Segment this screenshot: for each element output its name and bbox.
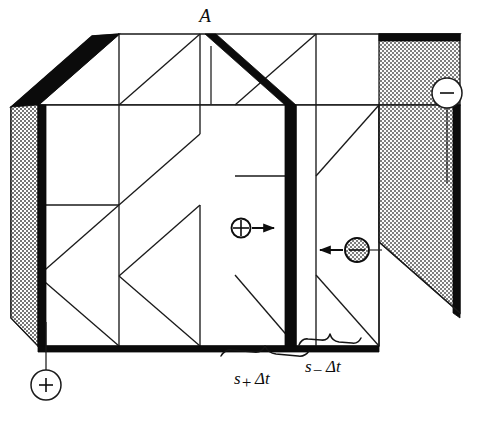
positive-electrode-thick-right-edge bbox=[38, 105, 46, 352]
negative-electrode-shaded-inner bbox=[379, 105, 460, 313]
negative-drift-sub: − bbox=[312, 361, 323, 380]
negative-drift-label-group: s−Δt bbox=[305, 357, 342, 380]
positive-drift-rest: Δt bbox=[254, 369, 271, 388]
negative-electrode-plate bbox=[379, 34, 460, 318]
positive-drift-sub: + bbox=[241, 373, 252, 392]
negative-electrode-thick-right-edge bbox=[453, 105, 460, 318]
box-bottom-front-thick-edge bbox=[38, 346, 379, 352]
negative-electrode-thick-top-edge bbox=[379, 34, 460, 41]
area-label: A bbox=[197, 5, 211, 26]
box-front-face bbox=[38, 105, 379, 346]
cross-section-slab-face bbox=[285, 105, 296, 346]
conductor-current-density-diagram: A bbox=[0, 0, 486, 426]
positive-drift-label-group: s+Δt bbox=[234, 369, 271, 392]
negative-drift-rest: Δt bbox=[325, 357, 342, 376]
positive-drift-distance: s+Δt bbox=[221, 346, 309, 392]
figure-root: A bbox=[0, 0, 486, 426]
